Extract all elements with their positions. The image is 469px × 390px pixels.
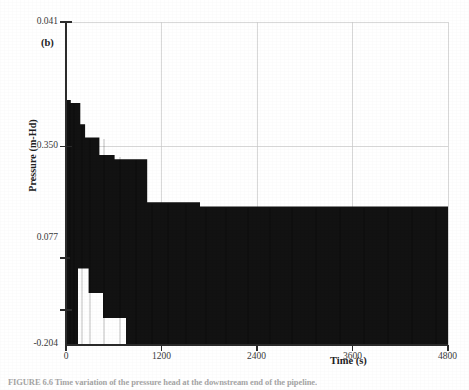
x-tick-label-0: 0 [56,352,76,362]
y-tick-label-2: 0.077 [16,233,58,243]
figure-container: (b) 0.041 0.350 0.077 -0.204 Pressure (m… [0,0,469,390]
x-tick-label-1200: 1200 [141,352,182,362]
x-tick-label-4800: 4800 [427,352,468,362]
figure-caption: FIGURE 6.6 Time variation of the pressur… [8,377,448,390]
y-axis-title: Pressure (m-Hd) [27,96,38,216]
y-tick-label-0: 0.041 [16,17,58,27]
y-tick-label-3: -0.204 [12,339,58,349]
x-axis-title: Time (s) [330,355,367,366]
panel-label: (b) [41,38,54,49]
x-tick-label-2400: 2400 [236,352,277,362]
pressure-time-chart [0,0,469,390]
